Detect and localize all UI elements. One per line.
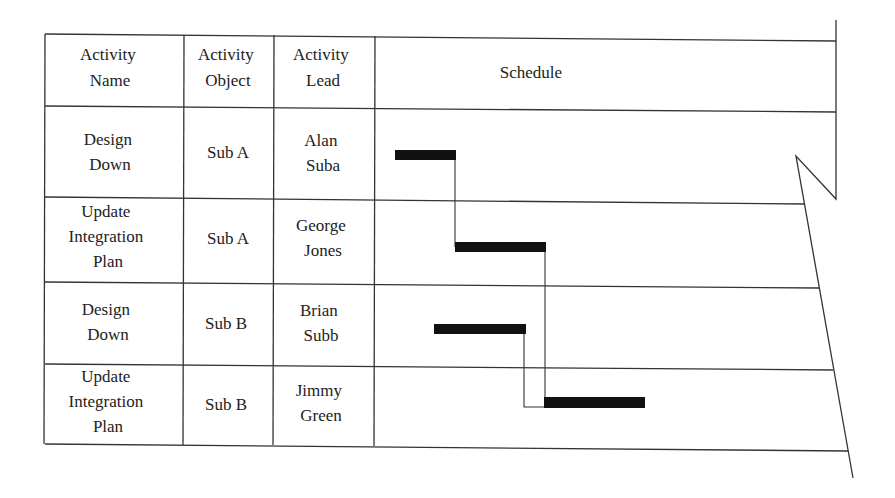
activity-name: Update Integration Plan [69,202,148,271]
activity-lead: George Jones [296,216,350,260]
activity-object: Sub A [207,229,250,248]
schedule-bar-2 [455,242,546,252]
table-left-border [44,34,45,444]
activity-object: Sub B [205,395,247,414]
table-row: Update Integration Plan Sub A George Jon… [69,202,350,271]
activity-object: Sub B [205,314,247,333]
column-divider-3 [374,36,375,446]
table-top-border [45,34,836,41]
header-schedule: Schedule [500,63,562,82]
activity-name: Design Down [82,300,134,344]
activity-name: Update Integration Plan [69,367,148,436]
schedule-bar-4 [544,397,645,408]
column-divider-2 [273,35,274,445]
header-activity-object: Activity Object [198,45,258,90]
schedule-bar-1 [395,150,456,160]
activity-lead: Brian Subb [300,301,342,345]
table-row: Design Down Sub A Alan Suba [84,130,342,175]
row-1-bottom-border [45,197,804,204]
gantt-diagram: Activity Name Activity Object Activity L… [0,0,895,498]
header-activity-name: Activity Name [80,45,140,90]
break-line-edge [796,20,853,478]
activity-lead: Alan Suba [304,131,341,175]
schedule-bars [395,150,645,408]
table-row: Design Down Sub B Brian Subb [82,300,342,345]
row-4-bottom-border [45,444,848,451]
column-divider-1 [183,35,184,445]
activity-name: Design Down [84,130,136,174]
header-bottom-border [45,106,836,112]
header-activity-lead: Activity Lead [293,45,353,90]
row-2-bottom-border [45,282,819,288]
table-header: Activity Name Activity Object Activity L… [80,45,562,90]
activity-object: Sub A [207,143,250,162]
schedule-bar-3 [434,324,526,334]
activity-lead: Jimmy Green [296,381,347,425]
grid-lines [45,34,848,451]
dependency-connectors [455,159,545,407]
table-row: Update Integration Plan Sub B Jimmy Gree… [69,367,347,436]
row-3-bottom-border [45,364,833,370]
